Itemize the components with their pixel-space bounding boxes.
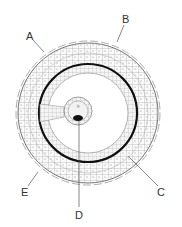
nucleus-oval	[73, 115, 83, 121]
label-b: B	[122, 13, 129, 25]
diagram: ✳ A B C D E	[0, 0, 182, 227]
label-d: D	[75, 209, 83, 221]
label-e: E	[21, 186, 28, 198]
svg-text:✳: ✳	[76, 103, 80, 109]
label-a: A	[26, 30, 34, 42]
label-c: C	[157, 186, 165, 198]
embryonic-disc: ✳	[64, 97, 92, 125]
